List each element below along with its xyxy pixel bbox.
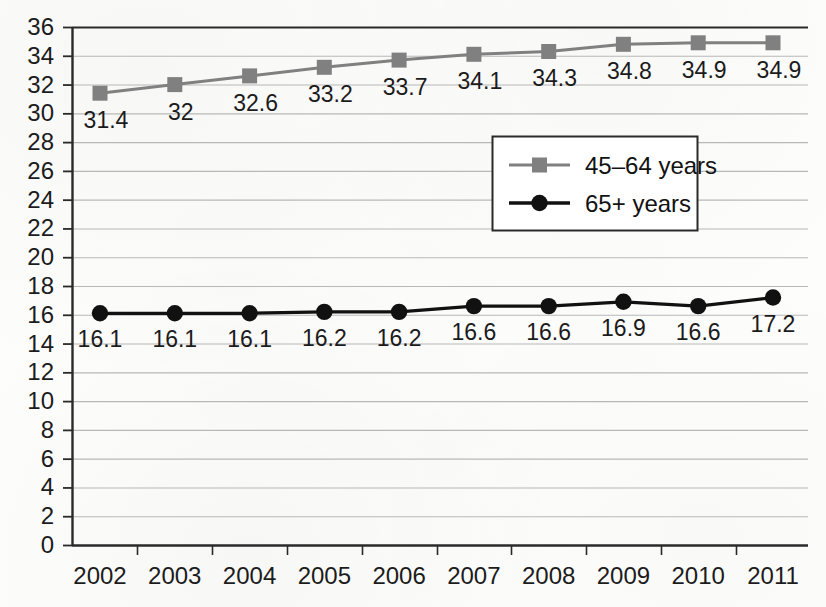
data-point-marker bbox=[765, 289, 781, 305]
y-axis-tick-label: 0 bbox=[0, 533, 54, 557]
data-point-marker bbox=[691, 35, 706, 50]
data-point-marker bbox=[616, 37, 631, 52]
y-axis-tick-label: 4 bbox=[0, 475, 54, 499]
y-axis-tick-label: 22 bbox=[0, 216, 54, 240]
data-point-value-label: 32.6 bbox=[216, 92, 296, 115]
legend-label-65-plus-years: 65+ years bbox=[585, 192, 691, 216]
data-point-value-label: 32 bbox=[141, 101, 221, 124]
data-point-marker bbox=[167, 77, 182, 92]
y-axis-tick-label: 36 bbox=[0, 15, 54, 39]
data-point-marker bbox=[541, 44, 556, 59]
y-axis-tick-label: 26 bbox=[0, 159, 54, 183]
data-point-value-label: 16.1 bbox=[135, 328, 215, 351]
y-axis-tick-label: 18 bbox=[0, 274, 54, 298]
data-point-marker bbox=[317, 60, 332, 75]
data-point-value-label: 16.1 bbox=[60, 328, 140, 351]
data-point-value-label: 16.6 bbox=[658, 321, 738, 344]
data-point-marker bbox=[391, 304, 407, 320]
data-point-marker bbox=[93, 86, 108, 101]
data-point-marker bbox=[541, 298, 557, 314]
data-point-value-label: 16.2 bbox=[284, 327, 364, 350]
y-axis-tick-label: 14 bbox=[0, 332, 54, 356]
data-point-marker bbox=[766, 35, 781, 50]
data-point-value-label: 31.4 bbox=[66, 109, 146, 132]
data-point-marker bbox=[316, 304, 332, 320]
data-point-value-label: 33.2 bbox=[290, 83, 370, 106]
data-point-value-label: 34.3 bbox=[515, 67, 595, 90]
data-point-marker bbox=[466, 47, 481, 62]
y-axis-tick-label: 8 bbox=[0, 418, 54, 442]
legend-label-45-64-years: 45–64 years bbox=[585, 154, 717, 178]
y-axis-tick-label: 20 bbox=[0, 245, 54, 269]
data-point-marker bbox=[466, 298, 482, 314]
data-point-value-label: 34.9 bbox=[664, 59, 744, 82]
y-axis-tick-label: 24 bbox=[0, 188, 54, 212]
data-point-value-label: 17.2 bbox=[733, 313, 813, 336]
y-axis-tick-label: 6 bbox=[0, 447, 54, 471]
legend-marker-square bbox=[532, 158, 547, 173]
series-line-2 bbox=[100, 298, 773, 314]
data-point-value-label: 16.9 bbox=[583, 317, 663, 340]
y-axis-tick-label: 10 bbox=[0, 389, 54, 413]
y-axis-tick-label: 32 bbox=[0, 73, 54, 97]
data-point-marker bbox=[167, 305, 183, 321]
data-point-value-label: 16.6 bbox=[509, 321, 589, 344]
x-axis-tick-label: 2011 bbox=[728, 564, 818, 588]
y-axis-tick-label: 28 bbox=[0, 130, 54, 154]
data-point-value-label: 16.6 bbox=[434, 321, 514, 344]
y-axis-tick-label: 30 bbox=[0, 101, 54, 125]
data-point-value-label: 33.7 bbox=[365, 76, 445, 99]
data-point-marker bbox=[690, 298, 706, 314]
data-point-marker bbox=[92, 305, 108, 321]
data-point-value-label: 34.8 bbox=[589, 60, 669, 83]
data-point-value-label: 16.2 bbox=[359, 327, 439, 350]
y-axis-tick-label: 34 bbox=[0, 44, 54, 68]
chart-figure: 363432302826242220181614121086420 200220… bbox=[0, 0, 826, 607]
data-point-marker bbox=[242, 68, 257, 83]
y-axis-tick-label: 12 bbox=[0, 360, 54, 384]
y-axis-tick-label: 2 bbox=[0, 504, 54, 528]
y-axis-tick-label: 16 bbox=[0, 303, 54, 327]
data-point-marker bbox=[241, 305, 257, 321]
data-point-marker bbox=[615, 294, 631, 310]
data-point-value-label: 16.1 bbox=[210, 328, 290, 351]
legend-marker-circle bbox=[531, 195, 547, 211]
data-point-value-label: 34.1 bbox=[440, 70, 520, 93]
data-point-value-label: 34.9 bbox=[739, 59, 819, 82]
data-point-marker bbox=[392, 53, 407, 68]
